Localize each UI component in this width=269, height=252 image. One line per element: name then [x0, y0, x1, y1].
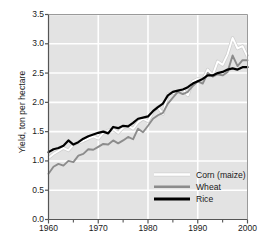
- yield-line-chart: Yield, ton per hectare 0.00.51.01.52.02.…: [0, 0, 269, 252]
- legend-label-wheat: Wheat: [196, 182, 221, 192]
- legend-label-rice: Rice: [196, 194, 213, 204]
- plot-area: Corn (maize)WheatRice: [0, 0, 269, 252]
- legend-label-corn-maize: Corn (maize): [196, 170, 246, 180]
